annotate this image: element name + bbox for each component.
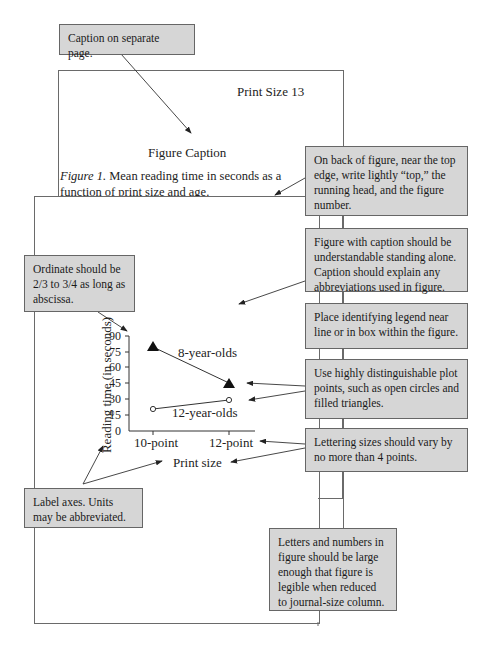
note-back-of-figure: On back of figure, near the top edge, wr… (305, 146, 468, 216)
note-plot-points: Use highly distinguishable plot points, … (305, 359, 468, 419)
y-axis-label: Reading time (in seconds) (99, 310, 115, 460)
series-label-12-year-olds: 12-year-olds (172, 405, 237, 421)
note-legend: Place identifying legend near line or in… (305, 303, 468, 349)
note-lettering: Lettering sizes should vary by no more t… (305, 428, 468, 472)
triangle-marker (147, 341, 159, 351)
triangle-marker (223, 378, 235, 388)
note-ordinate: Ordinate should be 2/3 to 3/4 as long as… (24, 255, 135, 312)
x-tick-10-point: 10-point (134, 435, 178, 451)
x-tick-12-point: 12-point (209, 435, 253, 451)
note-standalone: Figure with caption should be understand… (305, 228, 468, 292)
note-label-axes: Label axes. Units may be abbreviated. (24, 488, 143, 528)
note-legible: Letters and numbers in figure should be … (269, 528, 397, 611)
series-label-8-year-olds: 8-year-olds (178, 345, 237, 361)
x-axis-label: Print size (173, 455, 222, 471)
note-caption-separate: Caption on separate page. (59, 24, 195, 55)
svg-text:0: 0 (115, 424, 121, 438)
circle-marker (226, 397, 231, 402)
circle-marker (150, 406, 155, 411)
